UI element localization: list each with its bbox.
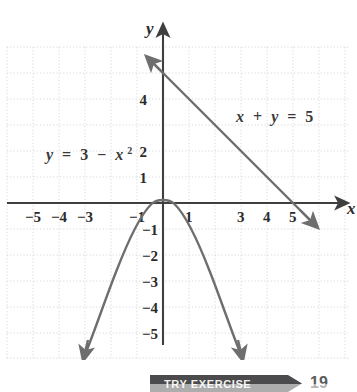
- x-tick-label: 4: [263, 209, 271, 225]
- y-tick-label: 4: [140, 92, 148, 108]
- y-tick-label: 2: [140, 144, 148, 160]
- y-tick-label: −5: [142, 326, 158, 342]
- x-tick-label: −3: [77, 209, 93, 225]
- straight-line: [152, 62, 311, 221]
- x-tick-label: 5: [289, 209, 297, 225]
- coordinate-graph: y x −5 −4 −3 −1 1 3 4 5 4 2 1 −1 −2 −3 −…: [0, 0, 357, 360]
- x-tick-label: 3: [237, 209, 245, 225]
- line-equation-label: x + y = 5: [235, 108, 313, 126]
- y-tick-label: 1: [140, 170, 148, 186]
- x-tick-label: −5: [25, 209, 41, 225]
- parabola-equation-label: y = 3 − x 2: [44, 145, 132, 164]
- banner-crop-fade: [150, 384, 357, 392]
- y-axis-letter: y: [144, 19, 154, 38]
- y-tick-label: −3: [142, 274, 158, 290]
- graph-svg: y x −5 −4 −3 −1 1 3 4 5 4 2 1 −1 −2 −3 −…: [0, 0, 357, 360]
- x-axis-letter: x: [346, 199, 356, 218]
- y-tick-label: −1: [142, 222, 158, 238]
- y-tick-label: −4: [142, 300, 159, 316]
- try-exercise-banner: TRY EXERCISE 19: [150, 375, 357, 392]
- x-tick-label: −4: [51, 209, 68, 225]
- y-tick-label: −2: [142, 248, 158, 264]
- figure-container: y x −5 −4 −3 −1 1 3 4 5 4 2 1 −1 −2 −3 −…: [0, 0, 357, 392]
